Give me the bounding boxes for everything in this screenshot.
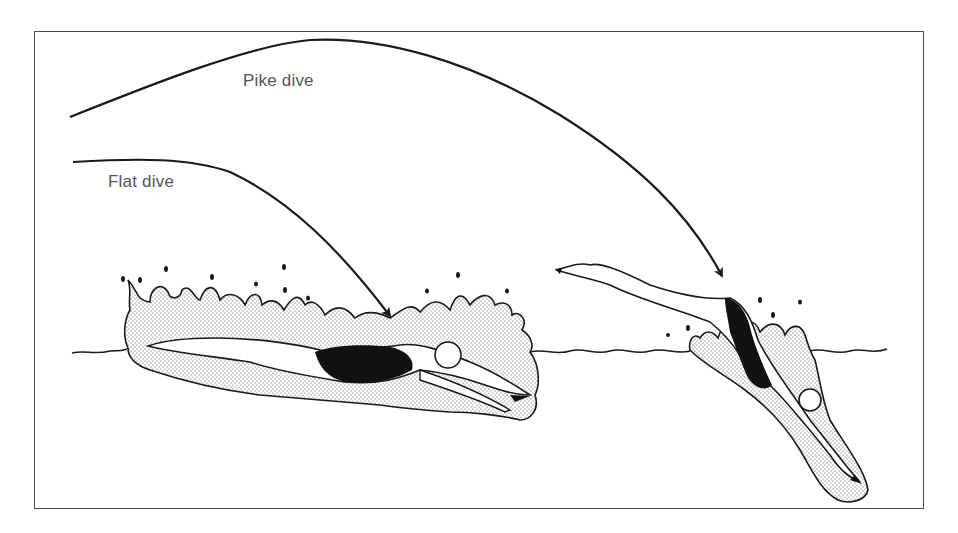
pike-diver-splash bbox=[666, 297, 868, 502]
dive-illustration bbox=[0, 0, 958, 533]
pike-trajectory-arrow bbox=[70, 40, 722, 276]
flat-dive-label: Flat dive bbox=[108, 172, 174, 192]
pike-dive-label: Pike dive bbox=[243, 71, 314, 91]
